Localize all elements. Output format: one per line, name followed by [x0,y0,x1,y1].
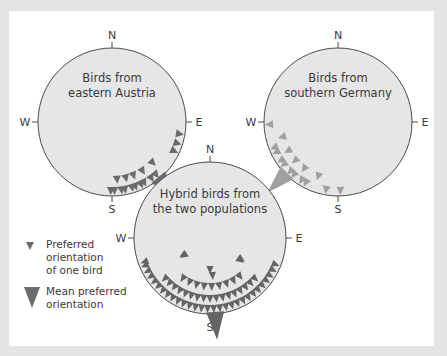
small-triangle-icon [22,238,46,257]
direction-label-e: E [196,116,203,129]
direction-label-s: S [109,203,116,216]
compass-germany: NESWBirds fromsouthern Germany [246,29,429,216]
legend-mean: Mean preferred orientation [22,285,132,313]
compass-title: Birds from [82,71,141,85]
direction-label-n: N [108,29,116,42]
direction-label-n: N [334,29,342,42]
direction-label-e: E [296,232,303,245]
compass-title: Birds from [308,71,367,85]
legend-label: Mean preferred [46,285,127,298]
direction-label-n: N [206,143,214,156]
compass-title: Hybrid birds from [160,187,260,201]
compass-title: southern Germany [284,86,392,100]
direction-label-s: S [335,203,342,216]
legend-label: Preferred [46,238,103,251]
legend-label: of one bird [46,264,103,277]
legend-label: orientation [46,251,103,264]
large-triangle-icon [22,285,46,313]
legend: Preferred orientation of one bird Mean p… [22,238,132,321]
legend-single-bird: Preferred orientation of one bird [22,238,132,277]
compass-title: the two populations [153,202,267,216]
legend-label: orientation [46,298,127,311]
direction-label-w: W [20,116,31,129]
direction-label-e: E [422,116,429,129]
direction-label-w: W [246,116,257,129]
compass-title: eastern Austria [68,86,156,100]
compass-circle [134,162,286,314]
